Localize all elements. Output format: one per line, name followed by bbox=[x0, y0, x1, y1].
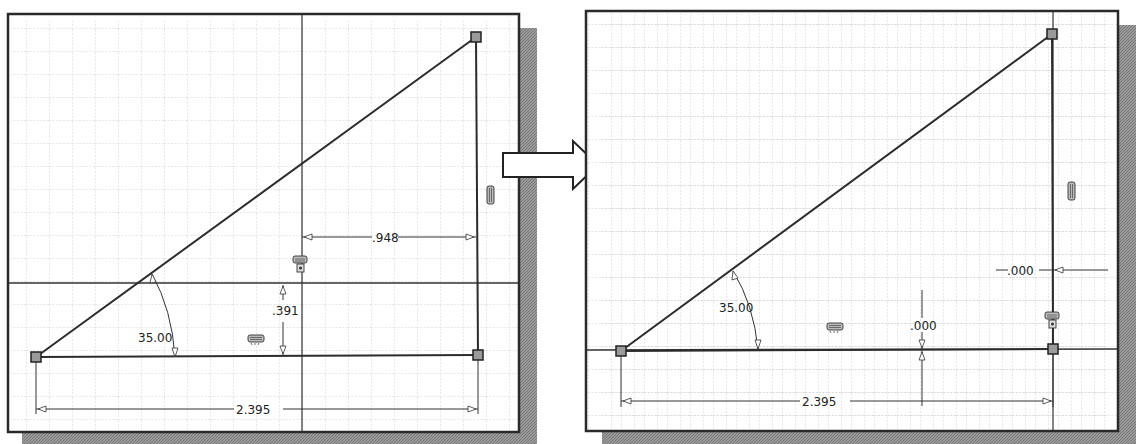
angle-dimension-value: 35.00 bbox=[719, 301, 753, 315]
panel-shadow bbox=[22, 433, 537, 444]
sketch-comparison: 35.00 2.395 .948 .391 bbox=[0, 0, 1140, 444]
sketch-panel-before: 35.00 2.395 .948 .391 bbox=[8, 14, 537, 444]
vertical-offset-value: .391 bbox=[272, 304, 299, 318]
vertical-offset-value: .000 bbox=[910, 319, 937, 333]
vertical-constraint-icon[interactable] bbox=[487, 186, 494, 204]
vertical-side-line[interactable] bbox=[1052, 34, 1053, 349]
sketch-point[interactable] bbox=[471, 32, 481, 42]
horizontal-offset-value: .948 bbox=[372, 231, 399, 245]
angle-dimension-value: 35.00 bbox=[138, 331, 172, 345]
length-dimension-value: 2.395 bbox=[236, 403, 270, 417]
sketch-point[interactable] bbox=[616, 346, 626, 356]
sketch-point[interactable] bbox=[1047, 29, 1057, 39]
sketch-point[interactable] bbox=[31, 352, 41, 362]
panel-shadow bbox=[520, 28, 537, 444]
sketch-point[interactable] bbox=[1048, 344, 1058, 354]
vertical-constraint-icon[interactable] bbox=[1068, 182, 1075, 200]
length-dimension-value: 2.395 bbox=[802, 395, 836, 409]
horizontal-offset-value: .000 bbox=[1007, 264, 1034, 278]
panel-shadow bbox=[1119, 25, 1136, 444]
panel-shadow bbox=[602, 432, 1136, 444]
sketch-panel-after: 35.00 2.395 .000 .000 bbox=[576, 11, 1136, 444]
sketch-point[interactable] bbox=[473, 350, 483, 360]
